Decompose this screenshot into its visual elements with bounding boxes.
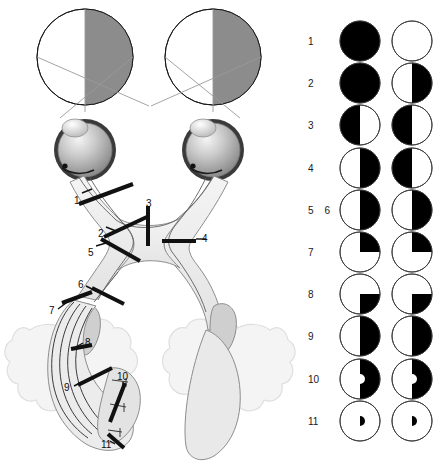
field-defect-row: 4 <box>300 147 447 189</box>
right-eye-field-circle <box>390 357 434 401</box>
right-eye-field-circle <box>390 61 434 105</box>
right-eye-field-right-lower-quadrantanopia <box>390 272 434 316</box>
field-defect-row: 11 <box>300 400 447 442</box>
pathway-svg <box>0 0 300 473</box>
left-eye-field-circle <box>338 61 382 105</box>
lesion-ref-3: 3 <box>308 120 314 131</box>
left-eye-field-circle <box>338 272 382 316</box>
left-optic-disc <box>62 163 67 168</box>
right-eye-field-circle <box>390 399 434 443</box>
visual-pathway-diagram: 1 2 3 4 5 6 7 8 9 10 11 <box>0 0 300 473</box>
lesion-label-10: 10 <box>117 372 128 382</box>
right-eye-field-right-homonymous-hemianopia-complete <box>390 314 434 358</box>
right-optic-disc <box>190 163 195 168</box>
right-eye-field-right-homonymous-hemianopia <box>390 188 434 232</box>
right-eye-field-junctional-scotoma <box>390 61 434 105</box>
lesion-label-5: 5 <box>88 248 94 258</box>
lesion-ref-7: 7 <box>308 247 314 258</box>
left-eye-field-circle <box>338 188 382 232</box>
right-eye-field-bitemporal-hemianopia <box>390 146 434 190</box>
field-defect-row-label: 4 <box>308 162 342 173</box>
right-eye-field-right-homonymous-hemianopia-macular-sparing <box>390 357 434 401</box>
left-eye-field-junctional-scotoma <box>338 61 382 105</box>
lesion-ref-6: 6 <box>325 204 331 215</box>
field-defect-row: 7 <box>300 231 447 273</box>
left-eye-field-circle <box>338 103 382 147</box>
field-defect-row: 8 <box>300 273 447 315</box>
right-eye-field-circle <box>390 103 434 147</box>
field-defect-row-label: 56 <box>308 204 342 215</box>
left-eye-field-bitemporal-hemianopia <box>338 146 382 190</box>
left-eye-field-circle <box>338 357 382 401</box>
lesion-ref-2: 2 <box>308 78 314 89</box>
field-defect-row: 9 <box>300 315 447 357</box>
left-eye-field-right-lower-quadrantanopia <box>338 272 382 316</box>
lesion-ref-5: 5 <box>308 204 314 215</box>
field-defect-row: 3 <box>300 104 447 146</box>
left-eye-field-right-homonymous-hemianopia <box>338 188 382 232</box>
field-defect-row: 1 <box>300 20 447 62</box>
left-eye-field-circle <box>338 314 382 358</box>
right-eye-field-circle <box>390 146 434 190</box>
field-defect-row-label: 1 <box>308 36 342 47</box>
left-eye-field-circle <box>338 146 382 190</box>
lesion-ref-1: 1 <box>308 36 314 47</box>
field-defect-row-label: 10 <box>308 373 342 384</box>
lesion-label-4: 4 <box>202 234 208 244</box>
right-eye-field-circle <box>390 188 434 232</box>
figure-root: 1 2 3 4 5 6 7 8 9 10 11 1234567891011 <box>0 0 447 473</box>
field-defect-row: 56 <box>300 189 447 231</box>
left-eye-field-right-upper-quadrantanopia <box>338 230 382 274</box>
right-eye-field-circle <box>390 19 434 63</box>
lesion-ref-10: 10 <box>308 373 319 384</box>
visual-field-defect-column: 1234567891011 <box>300 0 447 473</box>
lesion-ref-8: 8 <box>308 289 314 300</box>
right-eye-field-right-homonymous-macular-defect <box>390 399 434 443</box>
lesion-ref-11: 11 <box>308 415 318 426</box>
field-defect-row-label: 11 <box>308 415 342 426</box>
lesion-label-1: 1 <box>74 196 80 206</box>
right-eye-field-circle <box>390 230 434 274</box>
left-eye-field-total-blindness-left-eye <box>338 19 382 63</box>
lesion-ref-4: 4 <box>308 162 314 173</box>
left-eye-field-binasal-hemianopia <box>338 103 382 147</box>
left-eye-field-right-homonymous-hemianopia-complete <box>338 314 382 358</box>
field-defect-row-label: 8 <box>308 289 342 300</box>
field-defect-row-label: 9 <box>308 331 342 342</box>
left-eye-field-right-homonymous-hemianopia-macular-sparing <box>338 357 382 401</box>
right-eye-field-circle <box>390 314 434 358</box>
field-defect-row: 2 <box>300 62 447 104</box>
left-eye-field-circle <box>338 230 382 274</box>
left-eye-field-right-homonymous-macular-defect <box>338 399 382 443</box>
lesion-ref-9: 9 <box>308 331 314 342</box>
lesion-label-6: 6 <box>78 280 84 290</box>
left-eye-field-circle <box>338 399 382 443</box>
lesion-label-2: 2 <box>98 229 104 239</box>
field-defect-row: 10 <box>300 358 447 400</box>
left-eye-field-circle <box>338 19 382 63</box>
right-eye-field-total-blindness-left-eye <box>390 19 434 63</box>
right-eye-field-binasal-hemianopia <box>390 103 434 147</box>
field-defect-row-label: 7 <box>308 247 342 258</box>
field-defect-row-label: 3 <box>308 120 342 131</box>
lesion-label-9: 9 <box>64 383 70 393</box>
field-defect-row-label: 2 <box>308 78 342 89</box>
left-eye <box>54 119 116 181</box>
right-eye <box>182 119 244 181</box>
lesion-label-3: 3 <box>146 199 152 209</box>
lesion-label-8: 8 <box>85 338 91 348</box>
lesion-label-11: 11 <box>101 440 111 450</box>
right-eye-field-right-upper-quadrantanopia <box>390 230 434 274</box>
right-eye-field-circle <box>390 272 434 316</box>
lesion-label-7: 7 <box>49 306 55 316</box>
